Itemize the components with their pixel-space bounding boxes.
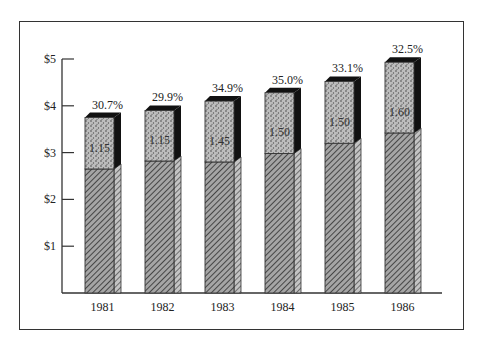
- bar-side-upper: [234, 96, 241, 162]
- bar-segment-upper: [265, 93, 294, 154]
- bar-side-upper: [114, 113, 121, 169]
- x-category-label: 1981: [91, 300, 115, 314]
- bar-side-upper: [414, 57, 421, 133]
- bar-segment-lower: [205, 162, 234, 293]
- bars: 1.1530.7%19811.1529.9%19821.4534.9%19831…: [85, 42, 423, 314]
- bar-percent-annotation: 29.9%: [152, 90, 183, 104]
- bar-value-label: 1.50: [269, 125, 290, 139]
- bar-value-label: 1.50: [329, 115, 350, 129]
- bar-segment-upper: [385, 62, 414, 133]
- bar-segment-lower: [325, 143, 354, 293]
- bar-percent-annotation: 33.1%: [332, 61, 363, 75]
- bar-1985: 1.5033.1%1985: [325, 61, 363, 314]
- bar-side-lower: [294, 149, 301, 293]
- bar-percent-annotation: 35.0%: [272, 73, 303, 87]
- bar-side-lower: [354, 138, 361, 293]
- bar-1986: 1.6032.5%1986: [385, 42, 423, 314]
- bar-segment-lower: [85, 169, 114, 293]
- bar-segment-lower: [385, 133, 414, 293]
- y-tick-label: $5: [44, 52, 56, 66]
- bar-side-lower: [414, 128, 421, 293]
- bar-side-upper: [174, 105, 181, 161]
- bar-side-upper: [294, 88, 301, 154]
- bar-1984: 1.5035.0%1984: [265, 73, 303, 314]
- bar-side-lower: [234, 157, 241, 293]
- bar-side-upper: [354, 76, 361, 143]
- x-category-label: 1986: [391, 300, 415, 314]
- bar-value-label: 1.15: [89, 141, 110, 155]
- y-tick-label: $1: [44, 239, 56, 253]
- bar-value-label: 1.60: [389, 105, 410, 119]
- y-tick-label: $2: [44, 192, 56, 206]
- y-tick-label: $4: [44, 99, 56, 113]
- x-category-label: 1984: [271, 300, 295, 314]
- bar-segment-upper: [325, 81, 354, 143]
- bar-side-lower: [174, 156, 181, 293]
- bar-side-lower: [114, 164, 121, 293]
- bar-segment-lower: [265, 154, 294, 293]
- bar-1983: 1.4534.9%1983: [205, 81, 243, 314]
- bar-value-label: 1.45: [209, 134, 230, 148]
- bar-percent-annotation: 32.5%: [392, 42, 423, 56]
- x-category-label: 1983: [211, 300, 235, 314]
- y-tick-label: $3: [44, 146, 56, 160]
- bar-percent-annotation: 34.9%: [212, 81, 243, 95]
- figure-caption-cropped: [70, 338, 430, 347]
- bar-percent-annotation: 30.7%: [92, 98, 123, 112]
- x-category-label: 1985: [331, 300, 355, 314]
- bar-1981: 1.1530.7%1981: [85, 98, 123, 315]
- bar-1982: 1.1529.9%1982: [145, 90, 183, 314]
- bar-segment-upper: [205, 101, 234, 162]
- stacked-bar-chart: $1$2$3$4$5 1.1530.7%19811.1529.9%19821.4…: [0, 0, 482, 347]
- bar-value-label: 1.15: [149, 133, 170, 147]
- x-category-label: 1982: [151, 300, 175, 314]
- bar-segment-lower: [145, 161, 174, 293]
